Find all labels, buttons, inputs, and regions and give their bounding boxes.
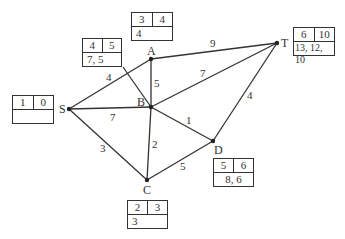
D-bottom: 8, 6: [214, 173, 253, 186]
node-D-box: 56 8, 6: [213, 158, 254, 187]
weight-S-C: 3: [100, 142, 106, 154]
node-B-label: B: [137, 95, 145, 109]
node-C-label: C: [143, 183, 151, 197]
S-early: 1: [13, 96, 34, 109]
edge-B-T: [151, 43, 277, 107]
node-S-box: 10: [12, 95, 54, 124]
C-bottom: 3: [128, 215, 167, 228]
C-early: 2: [128, 201, 148, 214]
S-bottom: [13, 110, 53, 123]
node-S-label: S: [59, 102, 66, 116]
weight-B-D: 1: [186, 114, 192, 126]
node-A-box: 34 4: [131, 12, 173, 41]
node-B-box: 45 7, 5: [82, 38, 122, 67]
node-C-dot: [145, 178, 149, 182]
node-T-label: T: [281, 36, 289, 50]
node-T-box: 610 13, 12, 10: [293, 27, 335, 56]
weight-S-A: 4: [106, 71, 112, 83]
T-early: 6: [294, 28, 315, 41]
A-bottom: 4: [132, 27, 172, 40]
B-late: 5: [103, 39, 122, 52]
weight-A-B: 5: [154, 77, 160, 89]
A-early: 3: [132, 13, 153, 26]
T-bottom: 13, 12, 10: [294, 42, 334, 55]
node-T-dot: [275, 41, 279, 45]
weight-S-B: 7: [110, 111, 116, 123]
node-B-dot: [149, 105, 153, 109]
edge-D-T: [213, 43, 277, 141]
weight-B-T: 7: [200, 67, 206, 79]
weight-A-T: 9: [210, 37, 216, 49]
node-D-label: D: [214, 143, 223, 157]
B-early: 4: [83, 39, 103, 52]
B-bottom: 7, 5: [83, 53, 121, 66]
node-S-dot: [67, 107, 71, 111]
edge-S-C: [69, 109, 147, 180]
C-late: 3: [148, 201, 167, 214]
edge-B-C: [147, 107, 151, 180]
T-late: 10: [315, 28, 335, 41]
edge-B-D: [151, 107, 213, 141]
weight-D-T: 4: [247, 89, 253, 101]
A-late: 4: [153, 13, 173, 26]
node-C-box: 23 3: [127, 200, 168, 229]
S-late: 0: [34, 96, 54, 109]
weight-C-D: 5: [180, 160, 186, 172]
weight-B-C: 2: [152, 138, 158, 150]
D-early: 5: [214, 159, 234, 172]
node-A-label: A: [147, 44, 156, 58]
D-late: 6: [234, 159, 253, 172]
